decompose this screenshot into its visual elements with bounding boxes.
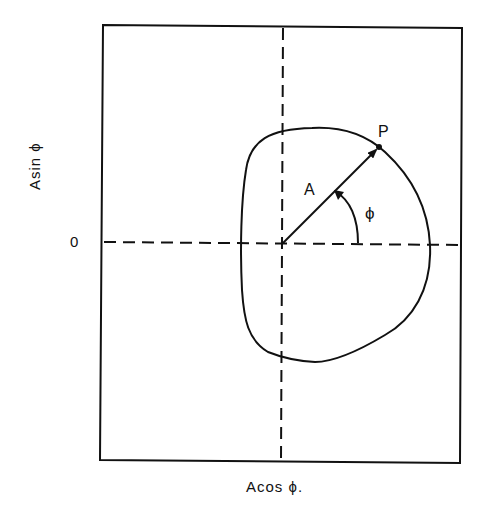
angle-label: ϕ (365, 204, 375, 224)
vector-label: A (304, 181, 315, 199)
x-axis-label: Acos ϕ. (246, 478, 303, 495)
origin-tick-label: 0 (70, 233, 78, 250)
vertical-dashed-axis (281, 28, 283, 462)
phase-plane-diagram (0, 0, 484, 515)
point-label: P (378, 123, 389, 141)
point-P (376, 144, 382, 150)
angle-phi-arc (336, 192, 358, 243)
angle-arrowhead (334, 190, 344, 200)
vector-A-arrow (283, 150, 376, 243)
y-axis-label: Asin ϕ (26, 142, 43, 190)
